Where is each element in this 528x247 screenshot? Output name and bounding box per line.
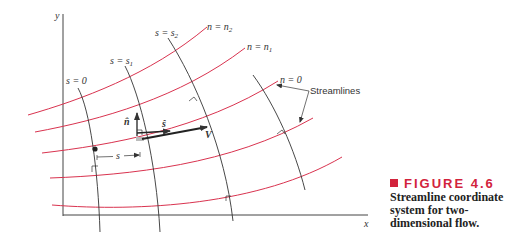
streamline-n2 bbox=[28, 27, 207, 115]
vector-V bbox=[142, 127, 207, 139]
annotation-leader-2 bbox=[300, 91, 309, 122]
label-s1: s = s1 bbox=[110, 55, 133, 68]
figure-caption: FIGURE 4.6 Streamline coordinate system … bbox=[390, 176, 525, 230]
figure-number: FIGURE 4.6 bbox=[390, 176, 525, 191]
label-n2: n = n2 bbox=[207, 21, 233, 34]
annotation-leader-1 bbox=[277, 85, 309, 91]
s-hat-label: ŝ bbox=[161, 118, 167, 129]
streamlines-annotation: Streamlines bbox=[310, 85, 360, 96]
origin-point bbox=[92, 146, 97, 151]
label-s0: s = 0 bbox=[66, 75, 87, 86]
label-n0: n = 0 bbox=[280, 74, 302, 85]
label-s2: s = s2 bbox=[155, 27, 179, 40]
label-n1: n = n1 bbox=[247, 41, 272, 54]
normal-line-s2 bbox=[168, 38, 233, 221]
y-axis-label: y bbox=[54, 10, 60, 21]
streamlines bbox=[28, 27, 342, 207]
distance-s-label: s bbox=[116, 150, 120, 161]
axes bbox=[63, 14, 368, 216]
streamline-n0 bbox=[42, 81, 278, 153]
x-axis-label: x bbox=[363, 218, 369, 229]
streamline-n1 bbox=[35, 48, 245, 132]
caption-square-icon bbox=[390, 179, 398, 187]
right-angle-markers bbox=[92, 97, 285, 201]
caption-line-3: dimensional flow. bbox=[390, 217, 525, 230]
n-hat-label: n̂ bbox=[124, 116, 130, 127]
